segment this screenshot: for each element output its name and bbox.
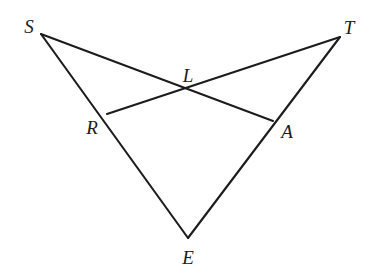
- figure-drawing-surface: [0, 0, 374, 276]
- point-label-s: S: [24, 17, 34, 36]
- point-label-a: A: [281, 122, 293, 141]
- segment-s-e: [41, 34, 188, 238]
- geometry-figure: STLRAE: [0, 0, 374, 276]
- point-label-t: T: [344, 18, 355, 37]
- segment-t-e: [188, 37, 340, 238]
- segment-s-a: [41, 34, 273, 121]
- point-label-e: E: [182, 248, 194, 267]
- point-label-l: L: [183, 66, 194, 85]
- point-label-r: R: [86, 118, 98, 137]
